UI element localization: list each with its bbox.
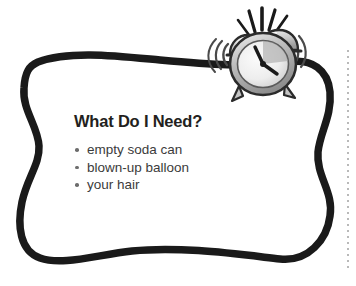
- worksheet-callout-page: What Do I Need? empty soda can blown-up …: [0, 0, 356, 286]
- list-item: empty soda can: [74, 141, 274, 159]
- bullet-icon: [75, 148, 79, 152]
- bullet-icon: [75, 166, 79, 170]
- list-item: blown-up balloon: [74, 159, 274, 177]
- callout-content: What Do I Need? empty soda can blown-up …: [74, 112, 274, 194]
- list-item-label: blown-up balloon: [87, 160, 189, 175]
- list-item-label: your hair: [87, 177, 140, 192]
- dotted-margin-rule: [347, 50, 349, 272]
- bullet-icon: [75, 183, 79, 187]
- list-item: your hair: [74, 176, 274, 194]
- page-title: What Do I Need?: [74, 112, 274, 131]
- alarm-clock-icon: [205, 4, 313, 108]
- materials-list: empty soda can blown-up balloon your hai…: [74, 141, 274, 194]
- list-item-label: empty soda can: [87, 142, 182, 157]
